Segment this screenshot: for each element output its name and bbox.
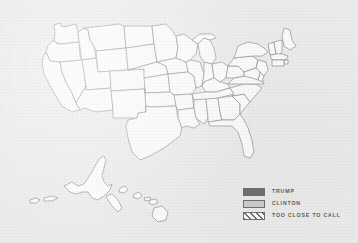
legend-swatch-too-close-to-call: [243, 212, 265, 220]
state-colorado[interactable]: [110, 69, 145, 91]
state-minnesota[interactable]: [152, 24, 178, 62]
legend-swatch-trump: [243, 188, 265, 196]
state-oregon[interactable]: [46, 40, 82, 62]
state-connecticut[interactable]: [272, 60, 284, 66]
state-michigan[interactable]: [198, 38, 216, 64]
state-alaska-panhandle[interactable]: [106, 194, 122, 212]
legend-label-too-close-to-call: TOO CLOSE TO CALL: [272, 213, 341, 218]
state-massachusetts[interactable]: [270, 54, 288, 60]
state-hawaii-maui[interactable]: [149, 199, 158, 205]
state-hawaii-kauai[interactable]: [119, 186, 128, 193]
state-alaska-aleutians-2[interactable]: [44, 196, 58, 201]
state-wyoming[interactable]: [96, 48, 128, 72]
map-legend: TRUMP CLINTON TOO CLOSE TO CALL: [243, 187, 341, 223]
state-missouri[interactable]: [168, 72, 196, 95]
state-new-york[interactable]: [234, 42, 268, 58]
state-maine[interactable]: [282, 28, 296, 50]
state-alaska[interactable]: [64, 156, 112, 200]
state-rhode-island[interactable]: [284, 60, 288, 64]
state-washington[interactable]: [54, 23, 79, 44]
legend-label-clinton: CLINTON: [272, 201, 301, 206]
legend-item-clinton[interactable]: CLINTON: [243, 199, 341, 209]
state-arkansas[interactable]: [174, 94, 194, 110]
legend-label-trump: TRUMP: [272, 189, 295, 194]
legend-item-too-close-to-call[interactable]: TOO CLOSE TO CALL: [243, 211, 341, 221]
us-election-map-screenshot: TRUMP CLINTON TOO CLOSE TO CALL: [0, 0, 358, 243]
state-hawaii-oahu[interactable]: [133, 192, 142, 199]
state-hawaii-bigisland[interactable]: [152, 206, 168, 222]
legend-item-trump[interactable]: TRUMP: [243, 187, 341, 197]
legend-swatch-clinton: [243, 200, 265, 208]
state-alaska-aleutians-1[interactable]: [30, 198, 40, 203]
